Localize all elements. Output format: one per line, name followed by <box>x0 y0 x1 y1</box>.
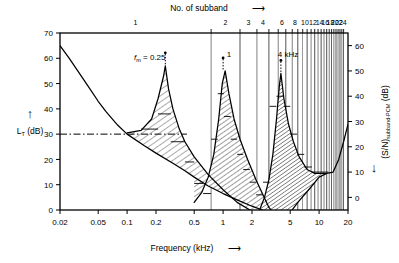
y2-tick-label-0: 0 <box>355 194 360 203</box>
y-tick-label-7: 70 <box>44 29 53 38</box>
y-right-arrow-icon: ↓ <box>371 160 378 175</box>
top-axis-label-subband-1: 1 <box>134 19 138 26</box>
y-left-arrow-icon: ↑ <box>27 106 34 121</box>
y-tick-label-0: 0 <box>49 206 54 215</box>
top-axis-label-subband-10: 10 <box>301 19 309 26</box>
y-tick-label-4: 40 <box>44 105 53 114</box>
masker-dot-2 <box>222 57 225 60</box>
x-tick-label-4: 0.5 <box>189 218 201 227</box>
masker-dot-3 <box>280 59 283 62</box>
top-axis-label-subband-8: 8 <box>293 19 297 26</box>
y2-tick-label-3: 30 <box>355 118 364 127</box>
top-axis-label-subband-3: 3 <box>247 19 251 26</box>
x-tick-label-6: 2 <box>250 218 255 227</box>
y2-tick-label-6: 60 <box>355 42 364 51</box>
y2-tick-label-1: 10 <box>355 168 364 177</box>
y-tick-label-2: 20 <box>44 156 53 165</box>
x-tick-label-0: 0.02 <box>52 218 68 227</box>
y2-tick-label-4: 40 <box>355 92 364 101</box>
masker-annotation-2-text: 1 <box>227 50 232 59</box>
x-tick-label-7: 5 <box>288 218 293 227</box>
x-tick-label-3: 0.2 <box>150 218 162 227</box>
masking-threshold-chart: 0.020.050.10.20.51251020 010203040506070… <box>0 0 399 263</box>
masker-annotation-3-text: 4 kHz <box>278 50 298 59</box>
figure-container: 0.020.050.10.20.51251020 010203040506070… <box>0 0 399 263</box>
top-axis-label-subband-4: 4 <box>261 19 265 26</box>
top-axis-label-subband-24: 24 <box>339 19 347 26</box>
y-tick-label-5: 50 <box>44 80 53 89</box>
top-axis-title-text: No. of subband <box>170 3 228 13</box>
x-axis-title: Frequency (kHz) ⟶ <box>151 243 241 253</box>
y-tick-label-3: 30 <box>44 130 53 139</box>
top-axis-arrow-icon: ⟶ <box>252 3 265 13</box>
top-axis-label-subband-2: 2 <box>224 19 228 26</box>
x-tick-label-5: 1 <box>221 218 226 227</box>
x-tick-label-8: 10 <box>315 218 324 227</box>
top-axis-label-subband-6: 6 <box>280 19 284 26</box>
x-axis-arrow-icon: ⟶ <box>228 243 241 253</box>
y2-tick-label-2: 20 <box>355 143 364 152</box>
x-tick-label-2: 0.1 <box>122 218 134 227</box>
y-tick-label-1: 10 <box>44 181 53 190</box>
x-axis-title-text: Frequency (kHz) <box>151 243 214 253</box>
y2-tick-label-5: 50 <box>355 67 364 76</box>
y-tick-label-6: 60 <box>44 54 53 63</box>
x-tick-label-1: 0.05 <box>90 218 106 227</box>
x-tick-label-9: 20 <box>344 218 353 227</box>
y-left-axis-title-text: LT (dB) <box>17 126 44 137</box>
